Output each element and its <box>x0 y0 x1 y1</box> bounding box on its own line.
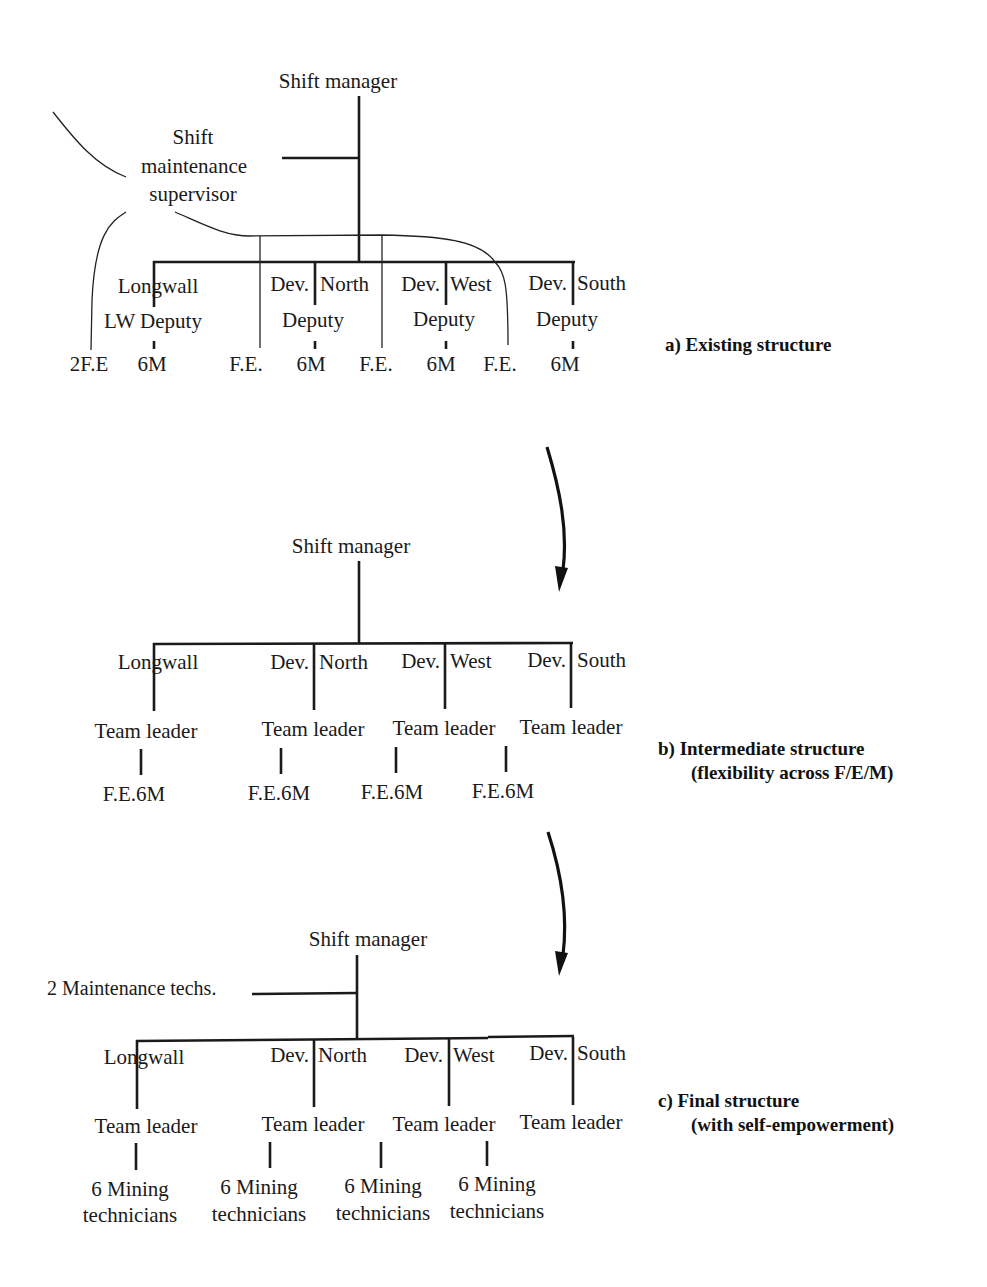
crew-west-b: F.E.6M <box>361 780 424 804</box>
unit-label-dev-north-right: North <box>320 272 369 296</box>
unit-label-dev-north-left: Dev. <box>270 272 309 296</box>
crew-west-c-line-1: 6 Mining <box>344 1174 422 1198</box>
unit-label-dev-west-c-left: Dev. <box>404 1043 443 1067</box>
caption-c-line-2: (with self-empowerment) <box>691 1114 894 1136</box>
unit-label-longwall-b: Longwall <box>118 650 199 674</box>
team-leader-longwall-c: Team leader <box>95 1114 198 1138</box>
connector-maintenance-branch <box>252 993 357 994</box>
unit-label-dev-north-b-right: North <box>319 650 368 674</box>
curve-supervisor-upper <box>53 112 126 177</box>
crew-south-b: F.E.6M <box>472 779 535 803</box>
unit-label-dev-north-b-left: Dev. <box>270 650 309 674</box>
team-leader-west-c: Team leader <box>393 1112 496 1136</box>
team-leader-south-c: Team leader <box>520 1110 623 1134</box>
section-a-existing-structure: Shift manager Shift maintenance supervis… <box>53 69 831 376</box>
unit-label-dev-west-right: West <box>450 272 492 296</box>
crew-south-c-line-2: technicians <box>450 1199 544 1223</box>
transition-arrow-a-to-b <box>547 447 568 592</box>
crew-north-a: 6M <box>296 352 326 376</box>
team-leader-north-c: Team leader <box>262 1112 365 1136</box>
crew-longwall-c-line-1: 6 Mining <box>91 1177 169 1201</box>
caption-b-line-1: b) Intermediate structure <box>658 738 865 760</box>
deputy-north-a: Deputy <box>282 308 344 332</box>
supervisor-line-2: maintenance <box>141 154 247 178</box>
unit-label-dev-south-c-left: Dev. <box>529 1041 568 1065</box>
deputy-west-a: Deputy <box>413 307 475 331</box>
unit-label-dev-north-c-right: North <box>318 1043 367 1067</box>
unit-label-dev-south-c-right: South <box>577 1041 627 1065</box>
connector-main-bar-c-right <box>488 1036 574 1037</box>
crew-longwall-a: 6M <box>137 352 167 376</box>
crew-west-c-line-2: technicians <box>336 1201 430 1225</box>
crew-north-c-line-1: 6 Mining <box>220 1175 298 1199</box>
caption-a: a) Existing structure <box>665 334 831 356</box>
unit-label-dev-south-left: Dev. <box>528 271 567 295</box>
fe-west-a: F.E. <box>359 352 392 376</box>
supervisor-line-1: Shift <box>173 125 214 149</box>
node-shift-manager-a: Shift manager <box>279 69 397 93</box>
unit-label-dev-west-left: Dev. <box>401 272 440 296</box>
team-leader-north-b: Team leader <box>262 717 365 741</box>
caption-b-line-2: (flexibility across F/E/M) <box>691 762 893 784</box>
unit-label-dev-west-b-right: West <box>450 649 492 673</box>
team-leader-longwall-b: Team leader <box>95 719 198 743</box>
arrowhead-icon <box>555 566 568 592</box>
fe-south-a: F.E. <box>483 352 516 376</box>
crew-longwall-c-line-2: technicians <box>83 1203 177 1227</box>
unit-label-dev-north-c-left: Dev. <box>270 1043 309 1067</box>
supervisor-line-3: supervisor <box>149 182 237 206</box>
curved-arrow-icon <box>547 447 565 570</box>
transition-arrow-b-to-c <box>548 832 568 976</box>
crew-west-a: 6M <box>426 352 456 376</box>
crew-north-b: F.E.6M <box>248 781 311 805</box>
deputy-south-a: Deputy <box>536 307 598 331</box>
node-shift-manager-c: Shift manager <box>309 927 427 951</box>
unit-label-dev-south-right: South <box>577 271 627 295</box>
connector-main-bar-c <box>136 1038 488 1041</box>
unit-label-dev-west-b-left: Dev. <box>401 649 440 673</box>
crew-south-a: 6M <box>550 352 580 376</box>
org-structure-diagram: Shift manager Shift maintenance supervis… <box>0 0 987 1287</box>
team-leader-west-b: Team leader <box>393 716 496 740</box>
unit-label-dev-south-b-right: South <box>577 648 627 672</box>
unit-label-dev-west-c-right: West <box>453 1043 495 1067</box>
deputy-longwall-a: LW Deputy <box>104 309 202 333</box>
team-leader-south-b: Team leader <box>520 715 623 739</box>
node-shift-manager-b: Shift manager <box>292 534 410 558</box>
crew-longwall-b: F.E.6M <box>103 782 166 806</box>
unit-label-longwall-c: Longwall <box>104 1045 185 1069</box>
unit-label-longwall-a: Longwall <box>118 274 199 298</box>
section-b-intermediate-structure: Shift manager Longwall Dev. North Dev. W… <box>95 534 894 806</box>
curved-arrow-icon <box>548 832 565 955</box>
caption-c-line-1: c) Final structure <box>658 1090 799 1112</box>
fe-longwall-a: 2F.E <box>70 352 109 376</box>
crew-south-c-line-1: 6 Mining <box>458 1172 536 1196</box>
crew-north-c-line-2: technicians <box>212 1202 306 1226</box>
unit-label-dev-south-b-left: Dev. <box>527 648 566 672</box>
section-c-final-structure: Shift manager 2 Maintenance techs. Longw… <box>47 927 894 1227</box>
node-maintenance-techs: 2 Maintenance techs. <box>47 977 216 999</box>
connector-main-bar-b <box>153 643 573 644</box>
arrowhead-icon <box>555 951 568 976</box>
fe-north-a: F.E. <box>229 352 262 376</box>
